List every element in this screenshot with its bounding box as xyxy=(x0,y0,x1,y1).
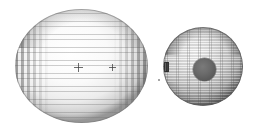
visualization-canvas xyxy=(0,0,254,132)
sphere-outline-left xyxy=(15,9,148,123)
faint-speck xyxy=(158,79,160,81)
large-wireframe-sphere[interactable] xyxy=(15,9,148,123)
sphere-outline-right xyxy=(163,27,243,106)
small-shaded-ellipsoid[interactable] xyxy=(163,27,243,106)
